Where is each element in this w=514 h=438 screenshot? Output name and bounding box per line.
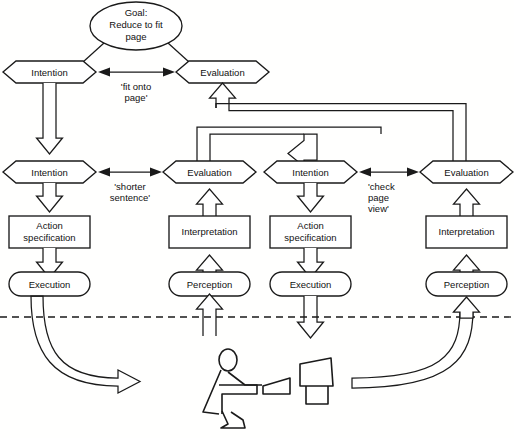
gulf-label-1-line2: page' [125, 92, 148, 103]
action-specification-line2: specification [23, 232, 75, 243]
evaluation-mid-label: Evaluation [187, 167, 231, 178]
curved-arrow-world-to-perception-right [352, 297, 480, 388]
flow-intention-right-to-action-spec-right [298, 183, 324, 212]
evaluation-mid: Evaluation [163, 161, 256, 183]
goal-line3: page [125, 31, 146, 42]
goal-to-intention-connector [83, 43, 104, 62]
feedback-route-mid-eval-to-right-intention [197, 127, 381, 161]
perception-right-label: Perception [444, 279, 489, 290]
curved-arrow-execution-to-world [31, 296, 140, 393]
intention-right: Intention [264, 161, 357, 183]
flow-interpretation-right-to-evaluation-right [454, 189, 480, 216]
actor-arm [228, 372, 262, 385]
gulf-label-3-line1: 'check [368, 181, 395, 192]
execution: Execution [9, 272, 90, 296]
evaluation-right: Evaluation [420, 161, 513, 183]
keyboard [263, 378, 290, 394]
actor-head [219, 349, 237, 371]
flow-interpretation-to-evaluation-mid [197, 189, 223, 216]
intention-right-label: Intention [292, 167, 328, 178]
user-at-workstation [203, 349, 333, 428]
action-specification: Action specification [9, 216, 90, 248]
action-specification-right-line2: specification [284, 232, 336, 243]
execution-right-label: Execution [290, 279, 332, 290]
monitor-screen [300, 358, 333, 386]
interpretation-label: Interpretation [182, 226, 238, 237]
execution-evaluation-cycle-diagram: Goal: Reduce to fit page Intention Evalu… [0, 0, 514, 438]
actor-leg [221, 411, 245, 428]
action-specification-line1: Action [36, 220, 62, 231]
goal-line1: Goal: [125, 7, 148, 18]
intention-top-label: Intention [31, 67, 67, 78]
flow-intention-mid-to-action-spec [37, 183, 63, 212]
evaluation-right-label: Evaluation [444, 167, 488, 178]
execution-right: Execution [270, 272, 351, 296]
diagram-canvas: Goal: Reduce to fit page Intention Evalu… [0, 0, 514, 438]
goal-node: Goal: Reduce to fit page [83, 2, 189, 62]
intention-top: Intention [3, 61, 96, 83]
gulf-label-2-line2: sentence' [110, 192, 151, 203]
interpretation-right: Interpretation [426, 216, 507, 248]
perception: Perception [169, 272, 250, 296]
execution-label: Execution [29, 279, 71, 290]
flow-world-to-perception [197, 294, 223, 336]
intention-mid-label: Intention [31, 167, 67, 178]
feedback-route-right-eval-to-top-eval [216, 104, 466, 162]
action-specification-right-line1: Action [297, 220, 323, 231]
evaluation-top-label: Evaluation [200, 67, 244, 78]
intention-mid: Intention [3, 161, 96, 183]
perception-right: Perception [426, 272, 507, 296]
perception-label: Perception [187, 279, 232, 290]
gulf-arrow-1: 'fit onto page' [98, 68, 175, 104]
flow-evaluation-mid-to-evaluation-top [210, 83, 236, 108]
gulf-label-3-line3: view' [368, 203, 389, 214]
action-specification-right: Action specification [270, 216, 351, 248]
goal-to-evaluation-connector [168, 43, 189, 62]
gulf-arrow-2: 'shorter sentence' [98, 168, 162, 204]
interpretation: Interpretation [169, 216, 250, 248]
gulf-arrow-3: 'check page view' [359, 168, 419, 215]
flow-intention-top-to-intention-mid [37, 83, 63, 154]
gulf-label-2-line1: 'shorter [114, 181, 145, 192]
interpretation-right-label: Interpretation [439, 226, 495, 237]
goal-line2: Reduce to fit [109, 19, 163, 30]
actor-chair [219, 385, 257, 414]
gulf-label-3-line2: page [368, 192, 389, 203]
monitor-base [306, 386, 328, 404]
actor-torso [203, 370, 221, 414]
evaluation-top: Evaluation [176, 61, 269, 83]
gulf-label-1-line1: 'fit onto [121, 81, 151, 92]
